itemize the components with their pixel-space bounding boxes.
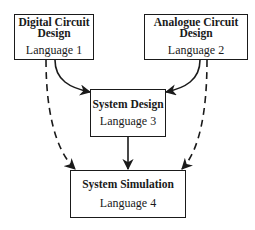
node-title: Analogue Circuit Design <box>145 17 247 39</box>
node-title: System Design <box>92 99 163 110</box>
node-analogue-circuit-design: Analogue Circuit Design Language 2 <box>144 14 248 60</box>
node-digital-circuit-design: Digital Circuit Design Language 1 <box>14 14 94 60</box>
node-system-simulation: System Simulation Language 4 <box>70 170 186 218</box>
node-language: Language 2 <box>168 43 224 57</box>
node-language: Language 1 <box>26 43 82 57</box>
node-language: Language 4 <box>100 196 156 210</box>
node-system-design: System Design Language 3 <box>90 89 166 137</box>
edge-digital-to-system-design <box>55 60 90 92</box>
node-title: System Simulation <box>82 179 174 190</box>
edge-analogue-to-system-design <box>166 60 200 92</box>
node-language: Language 3 <box>100 114 156 128</box>
node-title: Digital Circuit Design <box>15 17 93 39</box>
